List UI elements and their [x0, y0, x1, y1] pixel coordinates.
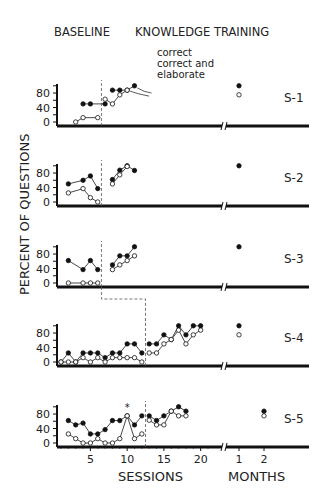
data-point-elaborate: [88, 195, 92, 199]
data-point-elaborate: [74, 436, 78, 440]
data-point-elaborate: [118, 263, 122, 267]
data-point-correct: [66, 351, 70, 355]
data-point-correct: [103, 102, 107, 106]
legend-correct-elaborate: correct and: [157, 58, 214, 69]
followup-point: [262, 409, 266, 413]
data-point-elaborate: [191, 333, 195, 337]
data-point-elaborate: [81, 441, 85, 445]
data-point-correct: [154, 418, 158, 422]
data-point-correct: [81, 267, 85, 271]
data-point-correct: [88, 258, 92, 262]
data-point-elaborate: [66, 191, 70, 195]
data-point-elaborate: [198, 328, 202, 332]
y-tick-label: 40: [36, 342, 50, 355]
data-point-correct: [132, 84, 136, 88]
data-point-correct: [66, 418, 70, 422]
data-point-elaborate: [132, 254, 136, 258]
data-point-correct: [88, 351, 92, 355]
y-axis-label: PERCENT OF QUESTIONS: [17, 133, 32, 295]
data-point-elaborate: [184, 414, 188, 418]
data-point-elaborate: [118, 93, 122, 97]
panel-s-3: 04080S-3: [36, 241, 309, 291]
data-point-elaborate: [88, 360, 92, 364]
data-point-correct: [110, 177, 114, 181]
followup-tick-label: 2: [261, 453, 268, 466]
x-tick-label: 20: [194, 453, 208, 466]
y-tick-label: 40: [36, 423, 50, 436]
data-point-elaborate: [140, 360, 144, 364]
data-point-elaborate: [118, 173, 122, 177]
data-point-elaborate: [132, 355, 136, 359]
data-point-elaborate: [125, 355, 129, 359]
data-point-elaborate: [66, 281, 70, 285]
data-point-correct: [96, 432, 100, 436]
y-tick-label: 0: [43, 437, 50, 450]
data-point-elaborate: [88, 281, 92, 285]
data-point-correct: [88, 432, 92, 436]
data-point-correct: [118, 418, 122, 422]
y-tick-label: 0: [43, 196, 50, 209]
followup-point: [237, 245, 241, 249]
data-point-elaborate: [103, 441, 107, 445]
data-point-correct: [96, 267, 100, 271]
y-tick-label: 80: [36, 248, 50, 261]
data-point-correct: [110, 351, 114, 355]
legend-correct: correct: [157, 47, 192, 58]
followup-point: [237, 164, 241, 168]
panel-label: S-1: [284, 91, 304, 105]
data-point-correct: [118, 88, 122, 92]
data-point-correct: [88, 102, 92, 106]
x-axis-label: SESSIONS: [118, 469, 183, 484]
data-point-elaborate: [118, 355, 122, 359]
x-tick-label: 10: [120, 453, 134, 466]
data-point-correct: [191, 324, 195, 328]
data-point-correct: [110, 418, 114, 422]
data-point-correct: [118, 168, 122, 172]
y-tick-label: 0: [43, 277, 50, 290]
data-point-correct: [140, 414, 144, 418]
data-point-correct: [66, 182, 70, 186]
y-tick-label: 40: [36, 102, 50, 115]
chart-panels: 04080S-104080S-204080S-304080S-404080S-5…: [36, 80, 309, 466]
data-point-elaborate: [154, 423, 158, 427]
x-tick-label: 15: [157, 453, 171, 466]
y-tick-label: 0: [43, 356, 50, 369]
y-tick-label: 80: [36, 167, 50, 180]
data-point-elaborate: [110, 182, 114, 186]
data-point-correct: [125, 254, 129, 258]
data-point-elaborate: [154, 351, 158, 355]
followup-point: [237, 333, 241, 337]
data-point-correct: [162, 333, 166, 337]
data-point-elaborate: [88, 441, 92, 445]
panel-s-1: 04080S-1: [36, 80, 309, 130]
x-tick-label: 5: [87, 453, 94, 466]
data-point-elaborate: [125, 258, 129, 262]
data-point-elaborate: [66, 432, 70, 436]
data-point-elaborate: [59, 360, 63, 364]
data-point-correct: [103, 427, 107, 431]
y-tick-label: 40: [36, 263, 50, 276]
followup-axis-label: MONTHS: [228, 469, 285, 484]
data-point-elaborate: [169, 409, 173, 413]
followup-point: [237, 324, 241, 328]
data-point-elaborate: [96, 436, 100, 440]
data-point-correct: [110, 88, 114, 92]
data-point-elaborate: [81, 281, 85, 285]
data-point-elaborate: [176, 414, 180, 418]
data-point-elaborate: [132, 436, 136, 440]
phase-label-baseline: BASELINE: [54, 25, 110, 39]
annotation-star: *: [125, 402, 130, 413]
data-point-correct: [140, 351, 144, 355]
data-point-correct: [88, 174, 92, 178]
legend-elaborate: elaborate: [157, 69, 205, 80]
data-point-elaborate: [125, 88, 129, 92]
phase-label-training: KNOWLEDGE TRAINING: [135, 25, 269, 39]
data-point-elaborate: [74, 360, 78, 364]
y-tick-label: 80: [36, 327, 50, 340]
data-point-correct: [125, 342, 129, 346]
data-point-elaborate: [96, 281, 100, 285]
data-point-correct: [147, 414, 151, 418]
data-point-elaborate: [81, 115, 85, 119]
data-point-elaborate: [125, 164, 129, 168]
followup-point: [262, 414, 266, 418]
